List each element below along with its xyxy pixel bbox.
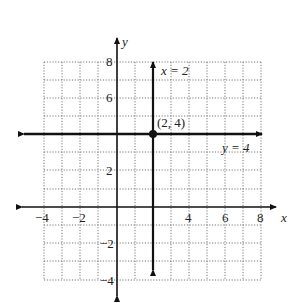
intersection-point <box>149 130 157 138</box>
line-x-label: x = 2 <box>160 63 189 78</box>
x-tick-label: 4 <box>185 210 192 225</box>
line-y-label: y = 4 <box>220 140 250 155</box>
y-tick-label: 6 <box>106 90 113 105</box>
x-tick-label: −2 <box>72 210 86 225</box>
y-tick-label: −2 <box>100 236 114 251</box>
y-tick-label: 2 <box>106 163 113 178</box>
y-tick-label: −4 <box>100 273 114 288</box>
y-tick-label: 8 <box>106 54 113 69</box>
y-axis-label: y <box>120 34 128 49</box>
x-tick-label: −4 <box>35 210 49 225</box>
x-tick-label: 6 <box>222 210 229 225</box>
point-label: (2, 4) <box>157 115 185 130</box>
coordinate-plane: y x x = 2 y = 4 (2, 4) −4 −2 4 6 8 8 6 2… <box>0 0 300 303</box>
x-axis-label: x <box>280 210 287 225</box>
x-tick-label: 8 <box>257 210 264 225</box>
